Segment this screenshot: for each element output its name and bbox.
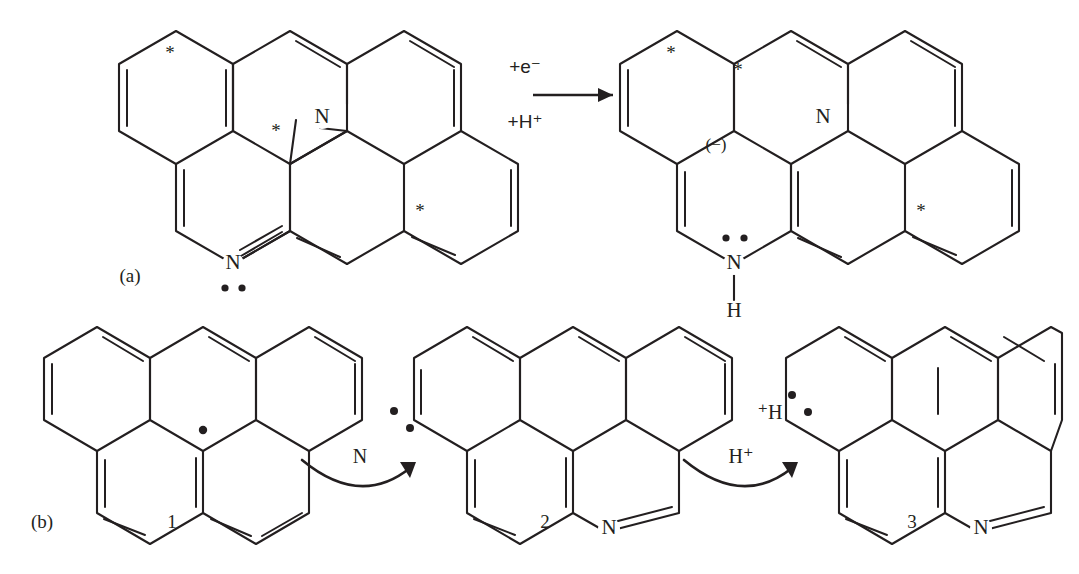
structure-2: N 2	[390, 327, 732, 544]
lone-pair-dot	[238, 284, 245, 291]
structure-number-1: 1	[167, 511, 177, 532]
atom-label-n-structure-3: N	[973, 515, 988, 539]
atom-label-n-central-product: N	[815, 104, 830, 128]
reaction-arrow: +e⁻ +H⁺	[508, 56, 613, 132]
panel-label-b: (b)	[31, 511, 53, 533]
atom-label-h: H	[726, 298, 741, 322]
curved-arrow-hplus: H⁺	[684, 445, 798, 487]
reaction-scheme-figure: N N N N * * * +e⁻ +H⁺	[0, 0, 1079, 574]
lone-pair-dot	[740, 234, 747, 241]
reagent-label-n: N	[353, 445, 367, 467]
structure-number-3: 3	[907, 511, 917, 532]
lone-pair-dot	[804, 408, 812, 416]
reaction-arrow-head	[598, 88, 613, 102]
structure-1: 1	[44, 327, 362, 544]
structure-number-2: 2	[540, 511, 550, 532]
lone-pair-dot	[390, 407, 398, 415]
reaction-label-proton: +H⁺	[508, 111, 543, 132]
reagent-label-hplus: H⁺	[729, 445, 754, 467]
radical-dot	[199, 426, 207, 434]
curved-arrow-hplus-head	[782, 462, 798, 478]
star-marker-4: *	[666, 42, 676, 63]
star-marker-1: *	[165, 42, 175, 63]
structure-a-reactant: N N N N * * *	[119, 31, 518, 292]
lone-pair-dot	[406, 424, 414, 432]
lone-pair-dot	[221, 284, 228, 291]
atom-label-n-lower-top: N	[225, 250, 240, 274]
structure-a-product: N N H * * * (−)	[620, 31, 1019, 322]
panel-label-a: (a)	[119, 265, 140, 287]
curved-arrow-n-head	[400, 462, 416, 478]
star-marker-2: *	[271, 120, 281, 141]
atom-label-n-structure-2: N	[601, 515, 616, 539]
structure-3: ⁺H N 3	[758, 327, 1063, 544]
lone-pair-dot	[722, 234, 729, 241]
atom-label-n-central-top: N	[314, 104, 329, 128]
star-marker-3: *	[415, 200, 425, 221]
curved-arrow-n: N	[302, 445, 416, 487]
proton-label-structure-3: ⁺H	[758, 401, 783, 423]
lone-pair-dot	[788, 391, 796, 399]
anion-charge-label: (−)	[706, 135, 727, 154]
star-marker-5: *	[733, 59, 743, 80]
star-marker-6: *	[916, 200, 926, 221]
atom-label-n-h: N	[726, 250, 741, 274]
reaction-label-electron: +e⁻	[509, 56, 541, 77]
